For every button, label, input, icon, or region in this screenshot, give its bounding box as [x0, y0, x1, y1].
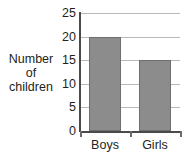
- y-axis-title-line-2: of: [4, 66, 58, 80]
- y-axis-tick-label: 10: [56, 78, 76, 91]
- x-axis-tick-label: Boys: [80, 138, 130, 152]
- y-axis-title: Number of children: [4, 52, 58, 94]
- y-axis-title-line-1: Number: [4, 52, 58, 66]
- y-axis-tick-label: 25: [56, 7, 76, 20]
- y-axis-tick-label: 15: [56, 54, 76, 67]
- y-axis-tick-label: 5: [56, 101, 76, 114]
- x-axis-tick: [130, 131, 132, 137]
- x-axis-tick-label: Girls: [130, 138, 180, 152]
- y-axis-title-line-3: children: [4, 80, 58, 94]
- x-axis-tick: [180, 131, 182, 137]
- y-axis-tick-label: 0: [56, 125, 76, 138]
- plot-area: [80, 13, 180, 131]
- y-axis-tick-labels: 0510152025: [54, 0, 76, 160]
- bar-chart: Number of children 0510152025 BoysGirls: [0, 0, 191, 160]
- bar-boys: [89, 37, 121, 131]
- x-axis-tick: [80, 131, 82, 137]
- gridline: [80, 13, 180, 14]
- y-axis-line: [79, 12, 81, 132]
- bar-girls: [139, 60, 171, 131]
- y-axis-tick-label: 20: [56, 31, 76, 44]
